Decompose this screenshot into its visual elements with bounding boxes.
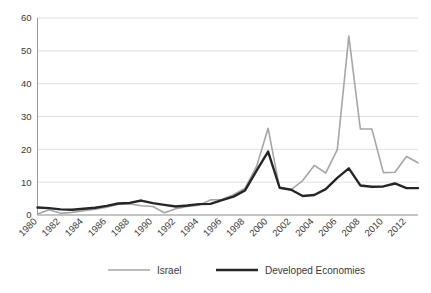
x-axis-tick-label: 1992 [155,216,178,239]
chart-container: 0102030405060 19801982198419861988199019… [0,0,431,293]
series-line-israel [38,36,419,214]
y-axis-tick-label: 30 [21,111,32,122]
x-axis-tick-label: 1986 [85,216,108,239]
legend: IsraelDeveloped Economies [108,265,365,276]
x-axis-tick-label: 1984 [62,216,85,239]
x-axis-tick-label: 1982 [39,216,62,239]
series-line-developed-economies [38,152,419,210]
x-axis-tick-label: 2004 [293,216,316,239]
x-axis-tick-label: 2002 [270,216,293,239]
y-axis-tick-label: 20 [21,144,32,155]
x-axis-tick-label: 1994 [178,216,201,239]
x-axis-tick-label: 1988 [108,216,131,239]
series-group [38,36,419,214]
y-axis-tick-label: 40 [21,78,32,89]
x-axis-tick-label: 1980 [16,216,39,239]
y-axis-tick-label: 50 [21,45,32,56]
x-axis-tick-label: 1996 [201,216,224,239]
x-axis-tick-label: 2000 [247,216,270,239]
legend-label-israel: Israel [157,265,181,276]
legend-label-developed-economies: Developed Economies [265,265,365,276]
x-axis-tick-label: 1990 [131,216,154,239]
y-axis-labels: 0102030405060 [21,12,32,220]
y-axis-tick-label: 60 [21,12,32,23]
x-axis-tick-label: 2008 [339,216,362,239]
x-axis-tick-label: 2012 [385,216,408,239]
line-chart: 0102030405060 19801982198419861988199019… [0,0,431,293]
y-axis-tick-label: 10 [21,177,32,188]
x-axis-tick-label: 1998 [224,216,247,239]
x-axis-labels: 1980198219841986198819901992199419961998… [16,216,408,239]
x-axis-tick-label: 2006 [316,216,339,239]
x-axis-tick-label: 2010 [362,216,385,239]
